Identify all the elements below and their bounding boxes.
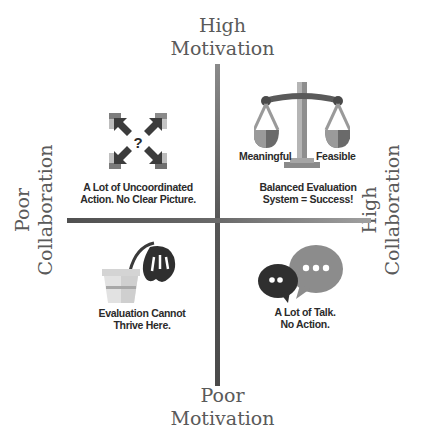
- horizontal-axis-line: [67, 218, 371, 223]
- caption-line: A Lot of Talk.: [240, 306, 370, 318]
- axis-label-line: Collaboration: [381, 100, 404, 320]
- wilted-flower-pot-icon: [102, 241, 182, 303]
- speech-bubbles-icon: [256, 243, 346, 305]
- axis-label-line: High: [358, 100, 381, 320]
- caption-line: No Action.: [240, 318, 370, 330]
- axis-label-line: Motivation: [0, 37, 445, 60]
- axis-label-line: Collaboration: [34, 100, 57, 320]
- caption-line: Thrive Here.: [80, 319, 204, 331]
- vertical-axis-line: [215, 64, 220, 386]
- axis-label-line: Poor: [0, 384, 445, 407]
- caption-line: Balanced Evaluation: [238, 181, 378, 193]
- axis-label-poor-motivation: Poor Motivation: [0, 384, 445, 430]
- quadrant-caption: A Lot of Uncoordinated Action. No Clear …: [70, 181, 206, 205]
- axis-label-line: Poor: [11, 100, 34, 320]
- scale-label-meaningful: Meaningful: [239, 150, 291, 162]
- quadrant-caption: A Lot of Talk. No Action.: [240, 306, 370, 330]
- quadrant-caption: Evaluation Cannot Thrive Here.: [80, 307, 204, 331]
- scale-label-feasible: Feasible: [316, 150, 356, 162]
- caption-line: Evaluation Cannot: [80, 307, 204, 319]
- axis-label-high-collaboration: High Collaboration: [358, 100, 406, 320]
- axis-label-high-motivation: High Motivation: [0, 14, 445, 60]
- caption-line: A Lot of Uncoordinated: [70, 181, 206, 193]
- axis-label-line: High: [0, 14, 445, 37]
- quadrant-caption: Balanced Evaluation System = Success!: [238, 181, 378, 205]
- caption-line: Action. No Clear Picture.: [70, 193, 206, 205]
- axis-label-poor-collaboration: Poor Collaboration: [11, 100, 59, 320]
- axis-label-line: Motivation: [0, 407, 445, 430]
- scattered-arrows-question-icon: ?: [109, 113, 167, 169]
- caption-line: System = Success!: [238, 193, 378, 205]
- svg-text:?: ?: [133, 134, 142, 151]
